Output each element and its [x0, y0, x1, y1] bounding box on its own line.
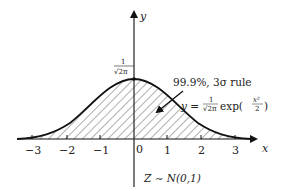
- tick-label: 2: [198, 144, 205, 157]
- caption: Z ∼ N(0,1): [143, 172, 201, 184]
- peak-label-numerator: 1: [121, 58, 125, 66]
- normal-distribution-figure: −3 −2 −1 0 1 2 3 x y 1 √2π 99.9%, 3σ rul…: [0, 0, 286, 196]
- tick-label: −1: [93, 144, 109, 157]
- formula-lhs: y =: [180, 100, 199, 112]
- formula-func: exp(: [220, 100, 243, 112]
- tick-label: −3: [25, 144, 41, 157]
- annotation-text: 99.9%, 3σ rule: [173, 76, 252, 88]
- formula-exp-den: 2: [255, 105, 259, 113]
- formula-frac-num: 1: [209, 96, 213, 104]
- y-axis-label: y: [139, 10, 147, 23]
- formula-exp-num: x²: [253, 96, 260, 104]
- formula: y = 1 √2π exp( x² 2 ): [180, 96, 268, 113]
- tick-label: 0: [136, 143, 143, 156]
- peak-point: [132, 77, 136, 81]
- tick-label: 3: [232, 144, 239, 157]
- tick-label: −2: [59, 144, 75, 157]
- x-axis-label: x: [262, 142, 269, 155]
- peak-label-denominator: √2π: [114, 68, 128, 76]
- formula-close: ): [264, 100, 268, 112]
- formula-frac-den: √2π: [203, 105, 217, 113]
- tick-label: 1: [164, 144, 171, 157]
